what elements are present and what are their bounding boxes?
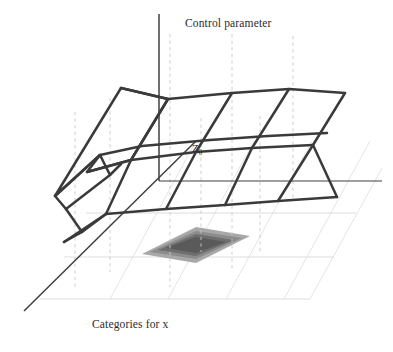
mesh-flap-left-tip <box>64 209 82 242</box>
base-plane-grid-diagonals <box>110 141 382 299</box>
diagram-svg <box>0 0 393 352</box>
base-grid-diagonal <box>168 141 254 299</box>
bifurcation-set-patch <box>142 227 250 263</box>
mesh-rib-1 <box>87 88 168 172</box>
base-grid-diagonal <box>284 141 370 299</box>
base-grid-diagonal <box>310 168 382 299</box>
base-grid-diagonal <box>110 141 196 299</box>
response-surface-mesh <box>55 88 345 242</box>
base-grid-diagonal <box>226 141 312 299</box>
axes <box>24 14 382 311</box>
mesh-flap-left-lower <box>82 214 106 232</box>
figure-canvas: Control parameter Categories for x Z0 <box>0 0 393 352</box>
fold-level-subscript: 0 <box>198 148 202 157</box>
horizontal-axis-label: Categories for x <box>92 318 169 330</box>
mesh-rib-6 <box>313 145 337 197</box>
vertical-axis-label: Control parameter <box>185 17 272 29</box>
fold-level-label: Z0 <box>192 142 202 154</box>
